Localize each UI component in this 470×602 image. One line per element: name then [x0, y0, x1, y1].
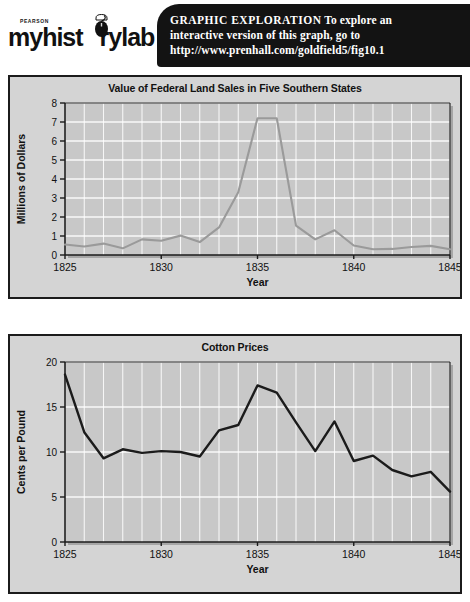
- y-tick-label: 0: [51, 250, 57, 261]
- graphic-exploration-banner: GRAPHIC EXPLORATION To explore an intera…: [157, 4, 470, 67]
- x-tick-label: 1845: [438, 261, 460, 273]
- wordmark-part-1: myhist: [8, 23, 83, 51]
- myhistorylab-wordmark: myhistrylab: [8, 24, 158, 50]
- y-tick-label: 2: [51, 212, 57, 223]
- line-chart-cotton-prices: 0510152018251830183518401845YearCents pe…: [10, 356, 460, 590]
- banner-line-2: interactive version of this graph, go to: [170, 28, 462, 43]
- chart-area-cotton-prices: 0510152018251830183518401845YearCents pe…: [10, 356, 460, 590]
- x-axis-label: Year: [246, 563, 268, 575]
- banner-line-1: GRAPHIC EXPLORATION To explore an: [170, 13, 462, 28]
- x-tick-label: 1840: [342, 261, 366, 273]
- x-tick-label: 1830: [150, 261, 174, 273]
- y-tick-label: 8: [51, 98, 57, 109]
- gridlines: [65, 103, 450, 255]
- y-tick-label: 20: [46, 357, 58, 368]
- x-tick-label: 1835: [246, 548, 270, 560]
- line-chart-land-sales: 01234567818251830183518401845YearMillion…: [10, 97, 460, 295]
- y-tick-label: 10: [46, 447, 58, 458]
- chart-title-land-sales: Value of Federal Land Sales in Five Sout…: [10, 77, 460, 94]
- x-tick-label: 1825: [53, 548, 77, 560]
- banner-url[interactable]: http://www.prenhall.com/goldfield5/fig10…: [170, 43, 462, 58]
- y-tick-label: 4: [51, 174, 57, 185]
- x-tick-label: 1825: [53, 261, 77, 273]
- page-header: PEARSON myhistrylab GRAPHIC EXPLORATION …: [0, 0, 470, 75]
- x-tick-label: 1835: [246, 261, 270, 273]
- wordmark-part-2: rylab: [100, 23, 155, 51]
- y-tick-label: 0: [51, 537, 57, 548]
- y-tick-label: 3: [51, 193, 57, 204]
- y-tick-label: 1: [51, 231, 57, 242]
- y-tick-label: 15: [46, 402, 58, 413]
- x-tick-label: 1830: [150, 548, 174, 560]
- y-tick-label: 7: [51, 117, 57, 128]
- y-tick-label: 6: [51, 136, 57, 147]
- chart-panel-land-sales: Value of Federal Land Sales in Five Sout…: [8, 75, 462, 299]
- chart-area-land-sales: 01234567818251830183518401845YearMillion…: [10, 97, 460, 295]
- x-axis-label: Year: [246, 276, 268, 288]
- y-tick-label: 5: [51, 492, 57, 503]
- chart-panel-cotton-prices: Cotton Prices 05101520182518301835184018…: [8, 334, 462, 594]
- x-tick-label: 1845: [438, 548, 460, 560]
- banner-heading: GRAPHIC EXPLORATION: [170, 14, 321, 26]
- x-tick-label: 1840: [342, 548, 366, 560]
- myhistorylab-logo: PEARSON myhistrylab: [8, 18, 158, 50]
- y-axis-label: Cents per Pound: [15, 410, 27, 494]
- chart-title-cotton-prices: Cotton Prices: [10, 336, 460, 353]
- banner-line-1-rest: To explore an: [321, 14, 392, 26]
- y-axis-label: Millions of Dollars: [15, 134, 27, 225]
- y-tick-label: 5: [51, 155, 57, 166]
- gridlines: [65, 362, 450, 542]
